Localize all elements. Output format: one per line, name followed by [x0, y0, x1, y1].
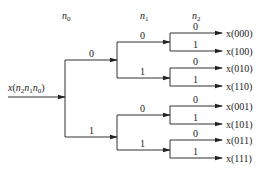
output-label-2: x(010) [226, 63, 253, 75]
level2-label-0: 0 [140, 30, 145, 41]
output-label-4: x(001) [226, 101, 253, 113]
stage-header-n1: n1 [140, 10, 149, 23]
level3-label-7: 1 [193, 146, 198, 157]
level1-label-0: 0 [89, 48, 94, 59]
output-label-7: x(111) [226, 153, 252, 165]
output-label-1: x(100) [226, 46, 253, 58]
bit-reversal-tree-diagram: n0 n1 n2 x)(n2n1n0) 0 1 0 1 0 1 0 1 0 1 … [0, 0, 263, 173]
level3-label-5: 1 [193, 112, 198, 123]
level3-label-4: 0 [193, 94, 198, 105]
output-label-0: x(000) [226, 28, 253, 40]
level2-label-3: 1 [140, 138, 145, 149]
level3-label-1: 1 [193, 39, 198, 50]
level2-label-2: 0 [140, 103, 145, 114]
level3-label-0: 0 [193, 21, 198, 32]
level3-label-2: 0 [193, 56, 198, 67]
level2-label-1: 1 [140, 66, 145, 77]
output-label-6: x(011) [226, 135, 252, 147]
output-label-5: x(101) [226, 119, 253, 131]
input-label: x)(n2n1n0) [7, 82, 45, 95]
level3-label-6: 0 [193, 128, 198, 139]
level3-label-3: 1 [193, 74, 198, 85]
level1-label-1: 1 [89, 125, 94, 136]
stage-header-n0: n0 [62, 10, 71, 23]
output-label-3: x(110) [226, 81, 252, 93]
